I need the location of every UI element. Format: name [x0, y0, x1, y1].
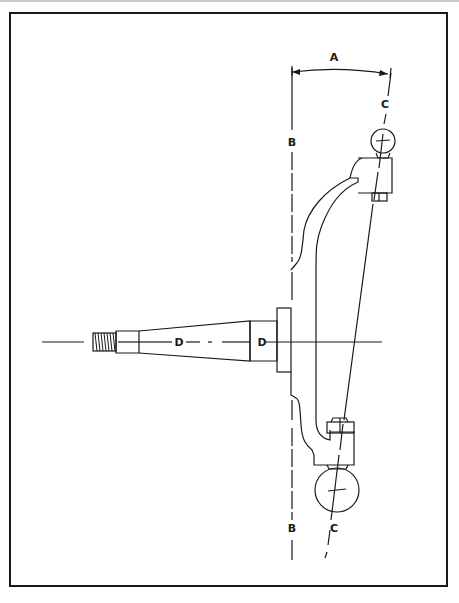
label-d-left: D — [174, 336, 183, 349]
steering-knuckle-diagram: A B B C C D D — [0, 0, 459, 603]
spindle-flange — [277, 308, 291, 372]
label-a: A — [330, 51, 339, 64]
label-c-bottom: C — [330, 522, 338, 535]
label-b-top: B — [288, 136, 296, 149]
spindle-shaft — [116, 321, 277, 361]
label-c-top: C — [381, 98, 389, 111]
label-d-right: D — [257, 336, 266, 349]
label-b-bottom: B — [288, 522, 296, 535]
upper-ball-joint — [371, 129, 395, 158]
upper-arm-boss — [350, 158, 392, 201]
spindle-thread — [93, 333, 116, 351]
knuckle-body — [291, 178, 358, 440]
angle-a-arc — [292, 66, 391, 78]
lower-arm-boss — [327, 418, 354, 433]
